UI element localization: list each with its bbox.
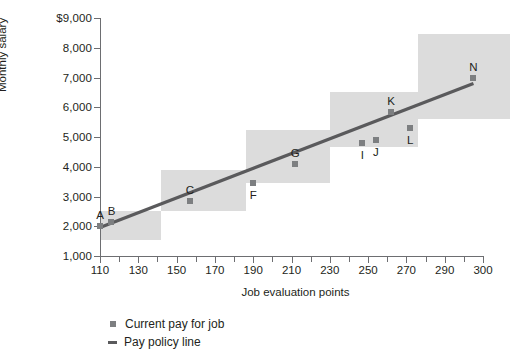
y-axis-tick-label: 3,000 bbox=[63, 191, 92, 203]
x-axis-tick-label: 190 bbox=[244, 264, 263, 276]
y-axis-tick bbox=[94, 48, 101, 49]
x-axis-tick-label: 130 bbox=[129, 264, 148, 276]
y-axis-title: Monthly salary bbox=[0, 18, 8, 92]
x-axis-tick-minor bbox=[426, 257, 427, 262]
x-axis-tick bbox=[138, 257, 139, 263]
data-point-marker bbox=[187, 198, 193, 204]
data-point-label: K bbox=[387, 95, 395, 107]
legend-item-current-pay: Current pay for job bbox=[108, 316, 224, 332]
y-axis-tick bbox=[94, 18, 101, 19]
x-axis-tick-minor bbox=[196, 257, 197, 262]
y-axis-tick-label: 4,000 bbox=[63, 161, 92, 173]
x-axis-tick bbox=[177, 257, 178, 263]
square-marker-icon bbox=[110, 321, 116, 327]
x-axis-tick-minor bbox=[157, 257, 158, 262]
x-axis-tick-minor bbox=[234, 257, 235, 262]
y-axis-tick bbox=[94, 197, 101, 198]
data-point-label: J bbox=[373, 146, 379, 158]
y-axis-tick-label: 1,000 bbox=[63, 250, 92, 262]
x-axis-tick bbox=[100, 257, 101, 263]
x-axis-tick bbox=[330, 257, 331, 263]
x-axis-tick-label: 210 bbox=[282, 264, 301, 276]
x-axis-tick-minor bbox=[311, 257, 312, 262]
data-point-label: F bbox=[250, 189, 257, 201]
y-axis-tick bbox=[94, 167, 101, 168]
data-point-label: G bbox=[291, 147, 300, 159]
data-point-label: N bbox=[469, 61, 477, 73]
data-point-marker bbox=[407, 125, 413, 131]
data-point-label: I bbox=[361, 149, 364, 161]
y-axis-tick-label: 8,000 bbox=[63, 42, 92, 54]
data-point-marker bbox=[292, 161, 298, 167]
x-axis-tick bbox=[253, 257, 254, 263]
x-axis-tick bbox=[406, 257, 407, 263]
data-point-label: B bbox=[108, 205, 116, 217]
data-point-marker bbox=[359, 140, 365, 146]
legend-item-pay-policy-line: Pay policy line bbox=[108, 334, 224, 350]
x-axis-tick-minor bbox=[349, 257, 350, 262]
data-point-marker bbox=[470, 75, 476, 81]
y-axis-tick bbox=[94, 137, 101, 138]
x-axis-tick-label: 230 bbox=[320, 264, 339, 276]
y-axis-tick-label: 6,000 bbox=[63, 101, 92, 113]
x-axis-title-text: Job evaluation points bbox=[241, 286, 349, 298]
pay-grade-box bbox=[161, 170, 245, 212]
data-point-marker bbox=[388, 109, 394, 115]
y-axis-tick bbox=[94, 78, 101, 79]
y-axis-tick-label: $9,000 bbox=[56, 12, 92, 24]
y-axis-tick bbox=[94, 107, 101, 108]
x-axis-title: Job evaluation points bbox=[0, 286, 531, 298]
x-axis-tick bbox=[445, 257, 446, 263]
pay-grade-box bbox=[418, 34, 510, 119]
data-point-marker bbox=[250, 180, 256, 186]
y-axis-tick-label: 7,000 bbox=[63, 72, 92, 84]
y-axis-tick-label: 2,000 bbox=[63, 220, 92, 232]
x-axis-tick bbox=[292, 257, 293, 263]
x-axis-tick-minor bbox=[387, 257, 388, 262]
x-axis-tick bbox=[368, 257, 369, 263]
pay-grade-box bbox=[246, 130, 330, 184]
x-axis-tick-label: 150 bbox=[167, 264, 186, 276]
chart-root: $9,0008,0007,0006,0005,0004,0003,0002,00… bbox=[0, 0, 531, 359]
x-axis-tick-label: 270 bbox=[397, 264, 416, 276]
chart-legend: Current pay for job Pay policy line bbox=[108, 316, 224, 352]
data-point-label: C bbox=[186, 184, 194, 196]
x-axis-tick bbox=[483, 257, 484, 263]
line-marker-icon bbox=[108, 341, 117, 344]
y-axis-tick-label: 5,000 bbox=[63, 131, 92, 143]
x-axis-tick-minor bbox=[119, 257, 120, 262]
x-axis-tick-label: 110 bbox=[91, 264, 109, 276]
data-point-marker bbox=[108, 219, 114, 225]
x-axis-tick-minor bbox=[272, 257, 273, 262]
x-axis-tick-label: 300 bbox=[473, 264, 492, 276]
x-axis-tick-label: 250 bbox=[359, 264, 378, 276]
x-axis-tick-label: 170 bbox=[205, 264, 224, 276]
x-axis-tick-minor bbox=[464, 257, 465, 262]
data-point-marker bbox=[97, 223, 103, 229]
legend-label-current-pay: Current pay for job bbox=[125, 318, 224, 330]
legend-label-pay-policy-line: Pay policy line bbox=[124, 336, 201, 348]
x-axis-tick bbox=[215, 257, 216, 263]
data-point-label: A bbox=[96, 209, 104, 221]
x-axis-tick-label: 290 bbox=[435, 264, 454, 276]
data-point-label: L bbox=[407, 134, 413, 146]
data-point-marker bbox=[373, 137, 379, 143]
